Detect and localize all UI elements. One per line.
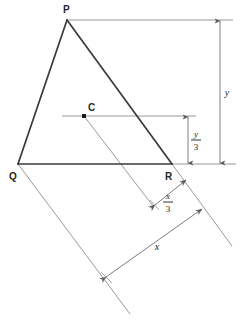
dimension-y: y	[220, 21, 230, 163]
dimension-x: x	[106, 209, 202, 277]
oblique-line-from-q	[18, 164, 130, 314]
point-labels: P Q R C	[9, 4, 173, 182]
dimension-x-over-3-denominator: 3	[166, 204, 171, 214]
vertex-label-p: P	[63, 4, 70, 15]
triangle-pqr	[18, 20, 172, 164]
dimension-x-over-3-numerator: x	[165, 191, 170, 201]
triangle-edge-pr	[67, 20, 172, 164]
vertex-label-q: Q	[9, 171, 17, 182]
tick-x-over-3-start	[150, 200, 159, 210]
figure-canvas: y y 3 x 3 x P Q R	[0, 0, 248, 326]
centroid-label-c: C	[88, 102, 95, 113]
oblique-cross-line-lower	[118, 212, 237, 292]
geometry-diagram: y y 3 x 3 x P Q R	[0, 0, 248, 326]
centroid-point-marker	[82, 114, 86, 118]
oblique-line-through-r	[172, 164, 232, 246]
oblique-line-from-centroid	[84, 116, 153, 206]
dimension-y-over-3: y 3	[188, 117, 201, 163]
triangle-edge-pq	[18, 20, 67, 164]
dimension-y-label: y	[224, 87, 230, 98]
vertex-label-r: R	[165, 171, 173, 182]
dimension-y-over-3-numerator: y	[193, 129, 198, 139]
construction-lines	[18, 20, 237, 314]
dimension-x-label: x	[154, 241, 160, 252]
dimension-x-over-3: x 3	[155, 180, 186, 214]
dimension-x-over-3-line	[155, 180, 186, 205]
dimension-y-over-3-denominator: 3	[194, 142, 199, 152]
